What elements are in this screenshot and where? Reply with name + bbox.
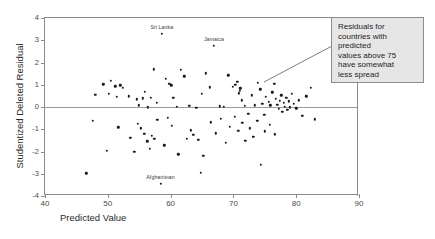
- data-point: [179, 68, 181, 70]
- data-point: [202, 155, 204, 157]
- data-point: [201, 92, 203, 94]
- x-tick-label: 60: [166, 199, 175, 208]
- data-point: [159, 183, 161, 185]
- chart-canvas: Studentized Deleted Residual 43210-1-2-3…: [0, 0, 435, 239]
- data-point: [285, 97, 287, 99]
- data-point: [314, 118, 316, 120]
- data-point: [102, 83, 104, 85]
- point-label: Afghanistan: [146, 174, 175, 180]
- point-label: Sri Lanka: [150, 24, 173, 30]
- data-point: [309, 87, 311, 89]
- data-point: [210, 121, 212, 123]
- data-point: [170, 84, 172, 86]
- data-point: [271, 91, 273, 93]
- data-point: [156, 101, 158, 103]
- y-tick-label: -2: [32, 146, 39, 157]
- x-tick-mark: [45, 194, 46, 198]
- y-tick-mark: [41, 152, 45, 153]
- data-point: [172, 96, 174, 98]
- data-point: [287, 100, 289, 102]
- data-point: [143, 132, 145, 134]
- data-point: [286, 108, 288, 110]
- y-tick-label: -1: [32, 123, 39, 134]
- data-point: [240, 99, 242, 101]
- zero-reference-line: [45, 107, 358, 108]
- data-point: [92, 120, 94, 122]
- y-tick-label: 1: [35, 79, 39, 90]
- y-tick-mark: [41, 85, 45, 86]
- data-point: [234, 84, 236, 86]
- data-point: [205, 72, 207, 74]
- data-point: [305, 95, 307, 97]
- data-point: [301, 115, 303, 117]
- x-tick-mark: [171, 194, 172, 198]
- annotation-line: less spread: [338, 70, 418, 80]
- x-tick-label: 70: [229, 199, 238, 208]
- data-point: [122, 87, 124, 89]
- data-point: [133, 151, 135, 153]
- y-tick-label: -3: [32, 168, 39, 179]
- data-point: [264, 130, 266, 132]
- data-point: [225, 141, 227, 143]
- data-point: [281, 111, 283, 113]
- data-point: [129, 137, 131, 139]
- y-tick-mark: [41, 40, 45, 41]
- data-point: [260, 164, 262, 166]
- data-point: [177, 153, 179, 155]
- x-tick-mark: [296, 194, 297, 198]
- data-point: [265, 96, 267, 98]
- data-point: [153, 138, 155, 140]
- data-point: [200, 171, 202, 173]
- data-point: [292, 103, 294, 105]
- data-point: [117, 126, 119, 128]
- data-point: [127, 95, 129, 97]
- x-axis-title: Predicted Value: [44, 212, 224, 223]
- data-point: [142, 97, 144, 99]
- data-point: [291, 92, 293, 94]
- data-point: [236, 81, 238, 83]
- data-point: [273, 82, 275, 84]
- data-point: [232, 85, 234, 87]
- data-point: [279, 100, 281, 102]
- data-point: [249, 127, 251, 129]
- data-point: [274, 133, 276, 135]
- data-point: [189, 129, 191, 131]
- data-point: [298, 99, 300, 101]
- data-point: [163, 144, 165, 146]
- x-tick-mark: [233, 194, 234, 198]
- data-point: [244, 140, 246, 142]
- data-point: [261, 102, 263, 104]
- annotation-callout: Residuals forcountries withpredictedvalu…: [331, 17, 424, 83]
- data-point: [114, 85, 116, 87]
- y-tick-label: 0: [35, 101, 39, 112]
- data-point: [192, 134, 194, 136]
- data-point: [144, 91, 146, 93]
- data-point: [156, 119, 158, 121]
- data-point: [275, 98, 277, 100]
- y-tick-mark: [41, 107, 45, 108]
- y-tick-mark: [41, 129, 45, 130]
- data-point: [161, 32, 163, 34]
- annotation-line: values above 75: [338, 51, 418, 61]
- x-tick-label: 90: [355, 199, 364, 208]
- data-point: [267, 101, 269, 103]
- y-tick-label: 2: [35, 57, 39, 68]
- annotation-line: predicted: [338, 41, 418, 51]
- data-point: [171, 124, 173, 126]
- point-label: Jamaica: [204, 36, 224, 42]
- data-point: [276, 104, 278, 106]
- data-point: [256, 120, 258, 122]
- data-point: [186, 137, 188, 139]
- data-point: [269, 124, 271, 126]
- data-point: [149, 97, 151, 99]
- data-point: [237, 129, 239, 131]
- data-point: [115, 95, 117, 97]
- annotation-line: Residuals for: [338, 22, 418, 32]
- data-point: [151, 135, 153, 137]
- data-point: [220, 117, 222, 119]
- data-point: [146, 140, 148, 142]
- data-point: [233, 116, 235, 118]
- data-point: [250, 94, 252, 96]
- data-point: [215, 132, 217, 134]
- data-point: [110, 80, 112, 82]
